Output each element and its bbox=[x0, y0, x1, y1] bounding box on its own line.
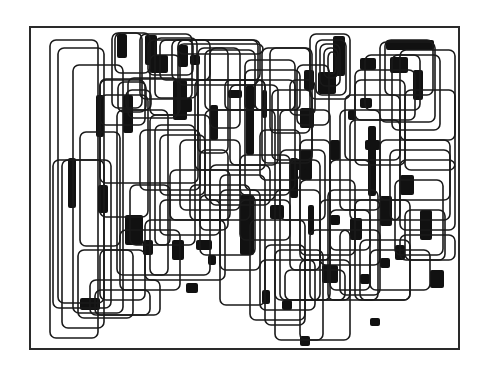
filled-block bbox=[333, 36, 345, 76]
filled-block bbox=[430, 270, 444, 288]
filled-block bbox=[172, 240, 184, 260]
filled-block bbox=[282, 300, 292, 310]
filled-block bbox=[117, 34, 127, 58]
filled-block bbox=[246, 85, 254, 155]
filled-block bbox=[270, 205, 284, 219]
filled-block bbox=[150, 55, 168, 73]
filled-block bbox=[180, 98, 192, 112]
filled-block bbox=[68, 158, 76, 208]
filled-block bbox=[330, 140, 340, 160]
filled-block bbox=[370, 318, 380, 326]
filled-block bbox=[240, 195, 254, 255]
filled-block bbox=[360, 274, 370, 284]
filled-block bbox=[380, 258, 390, 268]
filled-block bbox=[365, 140, 380, 150]
filled-block bbox=[350, 218, 362, 240]
filled-block bbox=[186, 283, 198, 293]
filled-block bbox=[290, 158, 298, 198]
filled-block bbox=[360, 58, 376, 70]
filled-block bbox=[400, 175, 414, 195]
abstract-artwork bbox=[0, 0, 487, 373]
filled-block bbox=[330, 215, 340, 225]
filled-block bbox=[262, 290, 270, 304]
